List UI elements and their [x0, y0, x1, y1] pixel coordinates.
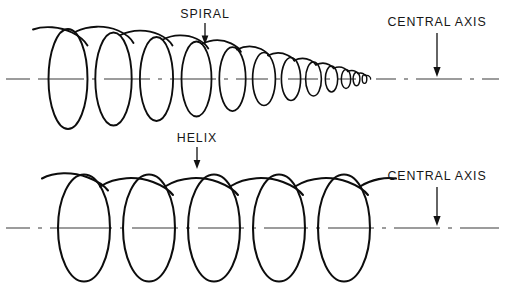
central-axis-bottom-arrow-icon	[433, 216, 440, 226]
central-axis-bottom-annotation: CENTRAL AXIS	[387, 169, 486, 226]
spiral-coil-group	[33, 27, 371, 129]
spiral-annotation: SPIRAL	[180, 7, 229, 45]
helix-arrow-icon	[194, 160, 201, 169]
central-axis-top-arrow-icon	[433, 67, 440, 77]
central-axis-bottom-label: CENTRAL AXIS	[387, 169, 486, 183]
spiral-helix-figure: SPIRAL HELIX CENTRAL AXIS CENTRAL AXIS	[0, 0, 505, 302]
spiral-connector-4	[202, 40, 241, 51]
spiral-label: SPIRAL	[180, 7, 229, 21]
helix-panel	[6, 173, 499, 281]
helix-annotation: HELIX	[177, 131, 217, 169]
helix-label: HELIX	[177, 131, 217, 145]
figure-canvas: SPIRAL HELIX CENTRAL AXIS CENTRAL AXIS	[0, 0, 505, 302]
spiral-panel	[6, 27, 499, 129]
helix-coil-group	[42, 173, 396, 281]
central-axis-top-annotation: CENTRAL AXIS	[387, 15, 486, 77]
central-axis-top-label: CENTRAL AXIS	[387, 15, 486, 29]
